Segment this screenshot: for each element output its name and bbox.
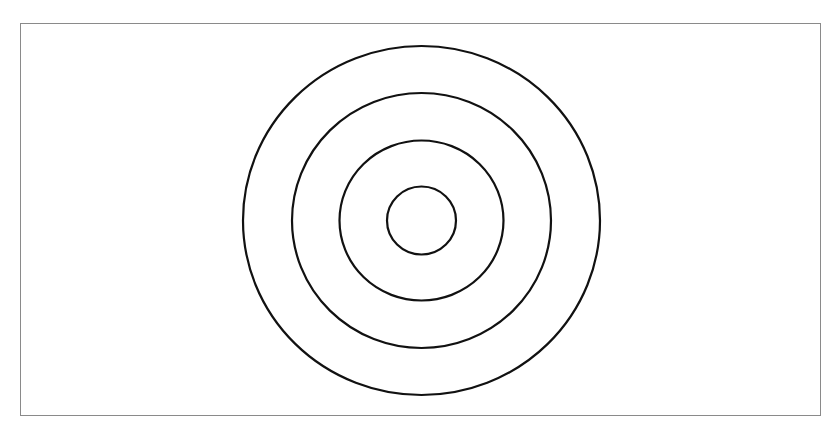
third-ring [292,93,551,348]
concentric-rings-diagram [0,0,836,438]
second-ring [340,141,504,301]
outer-ring [243,46,600,395]
ring-group [243,46,600,395]
inner-ring [387,187,456,255]
